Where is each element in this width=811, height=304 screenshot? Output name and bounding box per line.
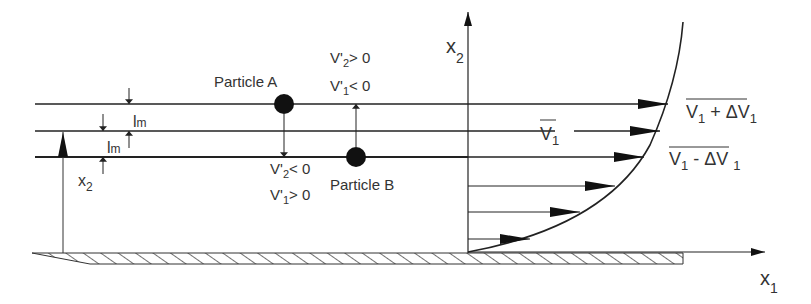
svg-text:V'2< 0: V'2< 0 <box>270 160 310 180</box>
particle-b-label: Particle B <box>330 176 394 193</box>
svg-text:lm: lm <box>107 139 121 156</box>
x2-axis: x2 <box>446 12 468 253</box>
particle-a: Particle A <box>214 73 294 157</box>
velocity-arrows <box>468 104 668 239</box>
particle-b-conditions: V'2< 0 V'1> 0 <box>270 160 310 206</box>
wall <box>32 253 683 264</box>
particle-a-label: Particle A <box>214 73 277 90</box>
layer-lines <box>35 104 468 157</box>
mean-velocity-label: V1 <box>540 120 559 148</box>
particle-b-dot <box>346 147 366 167</box>
x1-axis-label: x1 <box>760 267 778 296</box>
particle-a-dot <box>274 94 294 114</box>
svg-text:V1 - ΔV 1: V1 - ΔV 1 <box>669 149 741 173</box>
particle-b: Particle B <box>330 104 394 193</box>
x2-axis-label: x2 <box>446 35 464 66</box>
svg-text:V1: V1 <box>540 124 559 148</box>
height-arrow-icon <box>58 132 68 157</box>
height-label: x2 <box>78 172 93 194</box>
svg-text:V'1> 0: V'1> 0 <box>270 186 310 206</box>
upper-velocity-label: V1 + ΔV1 <box>686 99 757 126</box>
lower-velocity-label: V1 - ΔV 1 <box>669 147 741 173</box>
mixing-length-marker-upper: lm <box>129 88 147 148</box>
particle-a-conditions: V'2> 0 V'1< 0 <box>330 49 370 97</box>
svg-text:lm: lm <box>133 113 147 130</box>
svg-text:V'2> 0: V'2> 0 <box>330 49 370 69</box>
svg-text:V'1< 0: V'1< 0 <box>330 77 370 97</box>
height-marker: x2 <box>58 132 93 253</box>
svg-text:V1 + ΔV1: V1 + ΔV1 <box>686 102 757 126</box>
mixing-length-marker-lower: lm <box>103 114 121 174</box>
velocity-profile-curve <box>468 22 683 252</box>
boundary-layer-diagram: x2 lm lm Particle A V'2> 0 V'1< 0 Partic… <box>0 0 811 304</box>
